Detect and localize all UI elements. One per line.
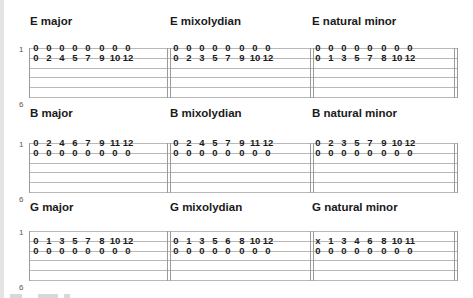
staff-line xyxy=(29,163,457,164)
fret-number: 0 xyxy=(377,246,391,256)
fret-number: 0 xyxy=(108,148,122,158)
fret-number: 9 xyxy=(235,53,249,63)
fret-number: 0 xyxy=(68,148,82,158)
barline xyxy=(454,143,455,193)
fret-number: 0 xyxy=(324,148,338,158)
string-label-bottom: 6 xyxy=(19,283,23,292)
fret-number: 0 xyxy=(42,148,56,158)
fret-number: 0 xyxy=(55,246,69,256)
fret-number: 3 xyxy=(195,53,209,63)
staff-line xyxy=(29,270,457,271)
string-label-top: 1 xyxy=(19,228,23,237)
fret-number: 5 xyxy=(68,53,82,63)
scale-title: E major xyxy=(30,15,72,27)
fret-number: 0 xyxy=(311,148,325,158)
scale-title: G major xyxy=(30,201,73,213)
fret-number: 0 xyxy=(261,246,275,256)
fret-number: 0 xyxy=(337,148,351,158)
fret-number: 0 xyxy=(311,53,325,63)
fret-number: 0 xyxy=(195,246,209,256)
fret-number: 0 xyxy=(42,246,56,256)
barline xyxy=(457,48,458,98)
barline xyxy=(167,231,168,281)
fret-number: 0 xyxy=(108,246,122,256)
fret-number: 7 xyxy=(363,53,377,63)
barline xyxy=(454,48,455,98)
fret-number: 0 xyxy=(208,148,222,158)
staff-line xyxy=(29,231,457,232)
fret-number: 0 xyxy=(390,246,404,256)
fret-number: 0 xyxy=(377,148,391,158)
fret-number: 0 xyxy=(221,246,235,256)
fret-number: 8 xyxy=(377,53,391,63)
page-edge-strip xyxy=(0,0,4,298)
cutoff-title-fragment xyxy=(38,294,58,298)
fret-number: 0 xyxy=(311,246,325,256)
scale-title: E mixolydian xyxy=(170,15,241,27)
barline xyxy=(167,143,168,193)
fret-number: 0 xyxy=(248,246,262,256)
fret-number: 9 xyxy=(95,53,109,63)
cutoff-title-fragment xyxy=(64,294,70,298)
fret-number: 2 xyxy=(182,53,196,63)
fret-number: 12 xyxy=(121,53,135,63)
fret-number: 0 xyxy=(182,246,196,256)
staff-line xyxy=(29,280,457,281)
barline xyxy=(457,231,458,281)
fret-number: 3 xyxy=(337,53,351,63)
barline xyxy=(454,231,455,281)
string-label-bottom: 6 xyxy=(19,100,23,109)
fret-number: 7 xyxy=(221,53,235,63)
fret-number: 7 xyxy=(81,53,95,63)
staff-line xyxy=(29,192,457,193)
fret-number: 5 xyxy=(350,53,364,63)
fret-number: 0 xyxy=(29,148,43,158)
fret-number: 0 xyxy=(81,246,95,256)
fret-number: 0 xyxy=(350,246,364,256)
fret-number: 0 xyxy=(81,148,95,158)
string-label-top: 1 xyxy=(19,45,23,54)
scale-title: B major xyxy=(30,107,73,119)
fret-number: 0 xyxy=(68,246,82,256)
fret-number: 12 xyxy=(403,53,417,63)
staff-line xyxy=(29,68,457,69)
fret-number: 12 xyxy=(261,53,275,63)
fret-number: 0 xyxy=(121,148,135,158)
fret-number: 0 xyxy=(95,246,109,256)
fret-number: 0 xyxy=(235,148,249,158)
fret-number: 0 xyxy=(95,148,109,158)
fret-number: 0 xyxy=(208,246,222,256)
fret-number: 0 xyxy=(337,246,351,256)
fret-number: 0 xyxy=(29,246,43,256)
fret-number: 0 xyxy=(324,246,338,256)
fret-number: 0 xyxy=(390,148,404,158)
fret-number: 0 xyxy=(235,246,249,256)
scale-title: E natural minor xyxy=(312,15,396,27)
fret-number: 0 xyxy=(121,246,135,256)
barline xyxy=(457,143,458,193)
cutoff-title-fragment xyxy=(10,294,22,298)
fret-number: 10 xyxy=(108,53,122,63)
fret-number: 0 xyxy=(261,148,275,158)
scale-title: G natural minor xyxy=(312,201,398,213)
fret-number: 0 xyxy=(221,148,235,158)
scale-title: G mixolydian xyxy=(170,201,242,213)
fret-number: 0 xyxy=(363,148,377,158)
fret-number: 0 xyxy=(169,53,183,63)
barline xyxy=(167,48,168,98)
fret-number: 0 xyxy=(363,246,377,256)
fret-number: 0 xyxy=(248,148,262,158)
fret-number: 0 xyxy=(169,246,183,256)
fret-number: 0 xyxy=(403,148,417,158)
fret-number: 0 xyxy=(350,148,364,158)
string-label-top: 1 xyxy=(19,140,23,149)
scale-title: B natural minor xyxy=(312,107,397,119)
fret-number: 5 xyxy=(208,53,222,63)
fret-number: 0 xyxy=(195,148,209,158)
staff-line xyxy=(29,172,457,173)
string-label-bottom: 6 xyxy=(19,195,23,204)
fret-number: 10 xyxy=(248,53,262,63)
staff-line xyxy=(29,77,457,78)
fret-number: 0 xyxy=(403,246,417,256)
staff-line xyxy=(29,182,457,183)
